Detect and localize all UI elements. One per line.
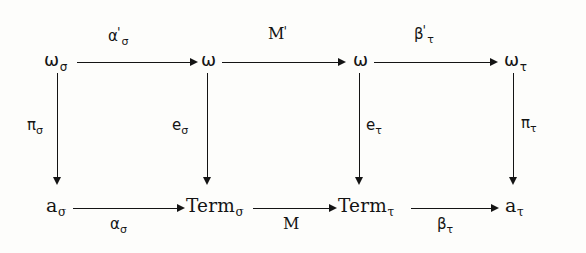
node-a-tau-sub: τ (517, 205, 524, 219)
node-a-sigma: aσ (46, 196, 66, 215)
label-alpha-prime-sigma-sub: σ (121, 35, 128, 48)
label-e-tau-sub: τ (375, 124, 382, 137)
node-a-sigma-sub: σ (58, 205, 66, 219)
label-beta-tau-sub: τ (447, 223, 454, 236)
commutative-diagram-canvas: ωσ ω ω ωτ aσ Termσ Termτ aτ (0, 0, 586, 253)
node-omega-tau-base: ω (504, 49, 519, 70)
arrowhead-top-left (190, 58, 198, 66)
label-beta-prime-tau-prime: ' (423, 23, 427, 38)
arrow-line-bottom-mid (253, 208, 331, 209)
arrowhead-top-right (490, 58, 498, 66)
arrowhead-bottom-left (177, 204, 185, 212)
label-m: M (283, 216, 299, 232)
node-term-tau: Termτ (338, 196, 394, 216)
arrow-line-bottom-right (411, 208, 493, 209)
label-e-sigma: eσ (172, 117, 188, 133)
node-term-sigma: Termσ (186, 196, 243, 216)
arrow-line-top-left (77, 62, 192, 63)
label-beta-tau-base: β (437, 215, 447, 233)
node-omega-sigma-base: ω (44, 49, 59, 70)
label-beta-tau: βτ (437, 216, 453, 232)
arrowhead-bottom-right (491, 204, 499, 212)
label-m-prime-base: M (268, 24, 284, 43)
label-alpha-sigma: ασ (110, 216, 127, 232)
node-omega-mid-right: ω (353, 50, 368, 69)
arrow-line-top-right (374, 62, 492, 63)
node-omega-tau: ωτ (504, 50, 527, 69)
node-omega-mid-right-base: ω (353, 49, 368, 70)
label-pi-tau-base: π (521, 114, 530, 132)
node-omega-mid-left-base: ω (201, 49, 216, 70)
node-a-tau: aτ (505, 196, 523, 215)
node-a-sigma-base: a (46, 194, 58, 216)
node-a-tau-base: a (505, 194, 517, 216)
arrowhead-right-vertical (509, 177, 517, 185)
label-e-sigma-sub: σ (181, 124, 188, 137)
label-m-prime-prime: ' (283, 24, 287, 39)
arrowhead-top-mid (338, 58, 346, 66)
label-m-base: M (283, 214, 299, 233)
label-alpha-sigma-base: α (110, 215, 120, 233)
arrow-line-mid-right-vertical (359, 73, 360, 179)
arrow-line-mid-left-vertical (207, 73, 208, 179)
node-omega-sigma-sub: σ (60, 60, 68, 74)
node-omega-sigma: ωσ (44, 50, 67, 69)
arrowhead-left-vertical (53, 177, 61, 185)
node-term-tau-base: Term (338, 195, 387, 216)
label-alpha-prime-sigma: α'σ (108, 28, 128, 44)
label-e-tau-base: e (366, 116, 375, 134)
label-pi-tau-sub: τ (530, 122, 537, 135)
label-pi-sigma-base: π (27, 116, 36, 134)
node-term-tau-sub: τ (388, 205, 395, 219)
node-term-sigma-base: Term (186, 195, 235, 216)
label-alpha-sigma-sub: σ (120, 223, 127, 236)
label-e-sigma-base: e (172, 116, 181, 134)
arrowhead-bottom-mid (329, 204, 337, 212)
arrow-line-bottom-left (73, 208, 179, 209)
label-beta-prime-tau: β'τ (414, 26, 434, 42)
label-alpha-prime-sigma-prime: ' (117, 25, 121, 40)
arrowhead-mid-left-vertical (203, 177, 211, 185)
arrowhead-mid-right-vertical (355, 177, 363, 185)
arrow-line-top-mid (222, 62, 340, 63)
label-pi-sigma-sub: σ (36, 124, 43, 137)
label-e-tau: eτ (366, 117, 382, 133)
label-beta-prime-tau-sub: τ (427, 33, 434, 46)
arrow-line-left-vertical (57, 73, 58, 179)
node-term-sigma-sub: σ (236, 205, 244, 219)
label-pi-tau: πτ (521, 115, 537, 131)
arrow-line-right-vertical (513, 73, 514, 179)
node-omega-tau-sub: τ (520, 60, 527, 74)
label-pi-sigma: πσ (27, 117, 43, 133)
node-omega-mid-left: ω (201, 50, 216, 69)
label-m-prime: M' (268, 26, 288, 42)
